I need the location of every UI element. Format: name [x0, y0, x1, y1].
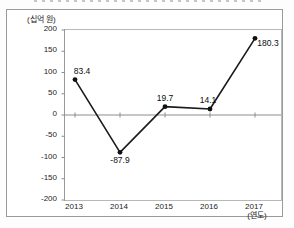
cropped-title-remnant [34, 0, 262, 2]
data-point-label: -87.9 [110, 156, 129, 165]
data-point-marker [73, 77, 78, 82]
y-tick-label: 100 [25, 67, 57, 77]
y-tick-label: -100 [25, 152, 57, 162]
y-tick-label: 0 [25, 109, 57, 119]
y-tick-label: 200 [25, 24, 57, 34]
data-point-marker [163, 104, 168, 109]
chart-canvas [65, 30, 281, 200]
data-point-label: 180.3 [257, 39, 278, 48]
data-point-label: 14.1 [200, 96, 217, 105]
y-tick-label: 150 [25, 45, 57, 55]
data-point-label: 83.4 [74, 67, 91, 76]
y-axis-unit-label: (십억 원) [27, 13, 56, 24]
data-point-marker [118, 150, 123, 155]
plot-area: 83.4-87.919.714.1180.3 [64, 29, 282, 201]
data-point-label: 19.7 [157, 94, 174, 103]
x-tick-label: 2017 [232, 202, 276, 211]
y-tick-label: 50 [25, 88, 57, 98]
x-tick-label: 2015 [142, 202, 186, 211]
x-tick-label: 2016 [187, 202, 231, 211]
data-point-marker [208, 107, 213, 112]
y-tick-label: -50 [25, 130, 57, 140]
x-tick-label: 2014 [97, 202, 141, 211]
chart-figure: (십억 원) 83.4-87.919.714.1180.3 2001501005… [6, 9, 283, 217]
x-axis-unit-label: (연도) [235, 211, 279, 220]
x-tick-label: 2013 [52, 202, 96, 211]
y-tick-label: -150 [25, 173, 57, 183]
